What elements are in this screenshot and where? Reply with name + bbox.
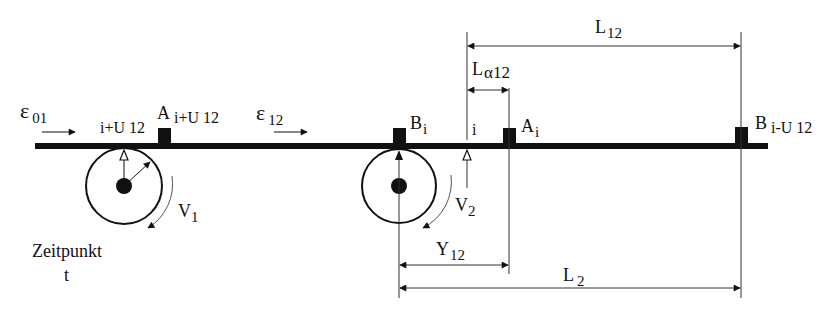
label-sub: 2 [468, 203, 476, 219]
label-sub: i+U 12 [174, 109, 219, 126]
label-text: B [755, 113, 767, 133]
label-text: L [595, 17, 606, 37]
rotation-arrow-v1 [148, 176, 173, 228]
label-dim-Y12: Y12 [436, 240, 465, 258]
label-sub: 01 [32, 110, 47, 126]
label-strain-01: ε01 [20, 100, 47, 122]
label-sub: 2 [577, 273, 585, 289]
label-marker-A-i: Ai [521, 117, 539, 135]
label-dim-L2: L2 [563, 266, 585, 284]
label-marker-A-iU12: Ai+U 12 [157, 104, 219, 122]
diagram-canvas [0, 0, 840, 310]
label-text: V [455, 195, 468, 215]
label-dim-L12: L12 [595, 18, 622, 36]
belt-drive-diagram: ε01 i+U 12 Ai+U 12 ε12 Bi i Ai Bi-U 12 L… [0, 0, 840, 310]
label-sub: i [423, 121, 427, 137]
label-sub: i-U 12 [771, 119, 812, 136]
label-marker-B-i: Bi [410, 114, 427, 132]
label-text: B [410, 113, 422, 133]
label-text: L [472, 59, 483, 79]
label-velocity-1: V1 [178, 202, 199, 220]
label-sub: 12 [268, 112, 283, 128]
label-velocity-2: V2 [455, 196, 476, 214]
label-sub: 12 [450, 247, 465, 263]
label-text: ε [20, 98, 29, 123]
label-text: L [563, 265, 574, 285]
label-text: A [157, 103, 170, 123]
marker-A-iU12 [158, 128, 171, 144]
label-point-iU12: i+U 12 [100, 120, 145, 136]
marker-B-i [393, 128, 406, 144]
label-text: V [178, 201, 191, 221]
label-sub: 1 [191, 209, 199, 225]
label-strain-12: ε12 [256, 102, 283, 124]
label-sub: α12 [484, 63, 510, 82]
label-text: ε [256, 100, 265, 125]
label-dim-La12: Lα12 [472, 60, 510, 78]
label-marker-B-iU12: Bi-U 12 [755, 114, 812, 132]
label-text: Y [436, 239, 449, 259]
roller-1 [86, 148, 162, 224]
label-sub: i [535, 124, 539, 140]
label-point-i: i [472, 122, 476, 138]
label-time-line1: Zeitpunkt [32, 242, 102, 260]
label-text: A [521, 116, 534, 136]
label-time-line2: t [64, 266, 69, 284]
label-sub: 12 [607, 25, 622, 41]
rotation-arrow-v2 [423, 175, 451, 228]
